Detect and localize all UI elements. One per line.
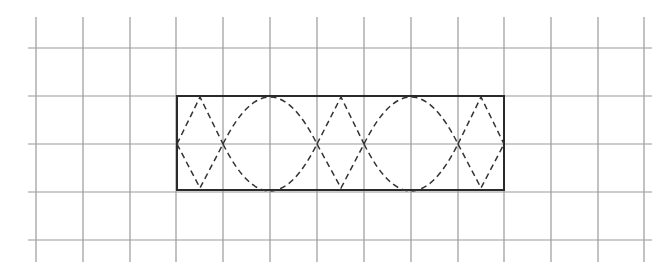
dashed-zigzag-1-bottom (177, 144, 223, 188)
rectangle-outline (177, 96, 504, 190)
grid-lines (28, 17, 652, 262)
dashed-zigzag-1-top (177, 97, 223, 144)
dashed-zigzag-2-top (317, 97, 364, 144)
dashed-zigzag-3-top (458, 97, 504, 144)
dashed-zigzag-3-bottom (458, 144, 504, 188)
grid-diagram (0, 0, 666, 279)
dashed-zigzag-2-bottom (317, 144, 364, 188)
